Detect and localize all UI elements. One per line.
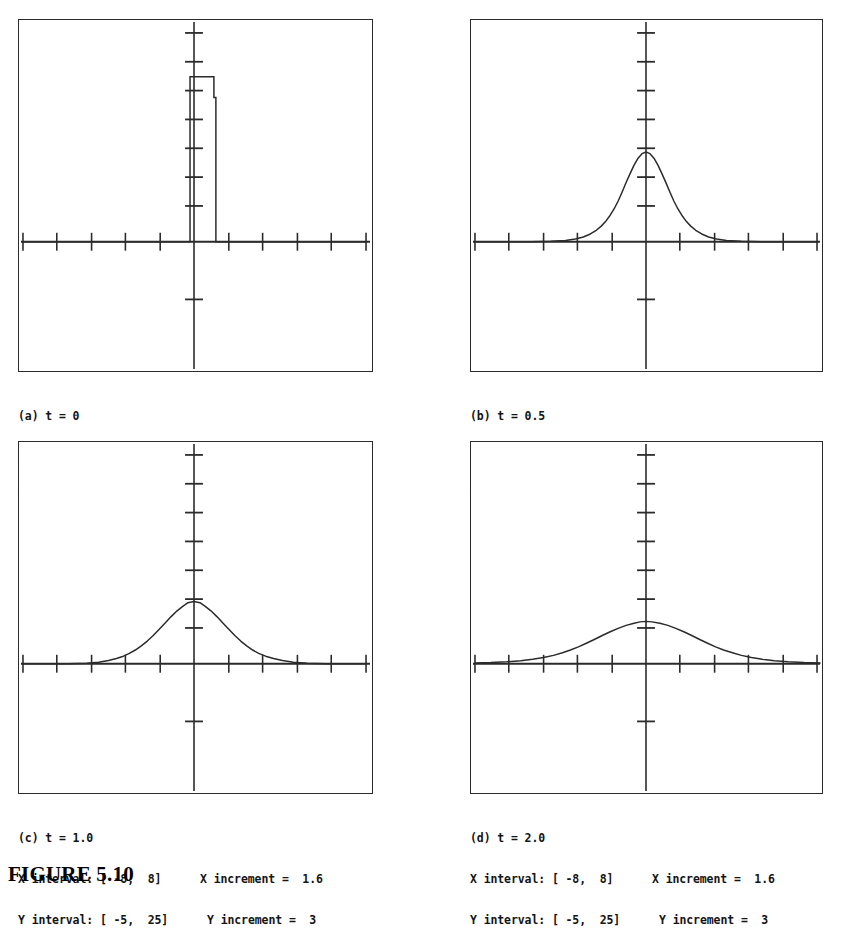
panel-d-y-increment: Y increment = 3: [652, 914, 768, 928]
plot-box-b: [470, 19, 823, 372]
plot-a: [19, 20, 372, 371]
plot-b: [471, 20, 822, 371]
axis-a: [21, 22, 370, 369]
axis-b: [473, 22, 820, 369]
panel-c-title: (c) t = 1.0: [18, 832, 373, 846]
plot-box-d: [470, 441, 823, 794]
panel-a-title: (a) t = 0: [18, 410, 373, 424]
panel-c-y-increment: Y increment = 3: [200, 914, 316, 928]
panel-c-x-increment: X increment = 1.6: [200, 873, 323, 887]
panel-b-title: (b) t = 0.5: [470, 410, 823, 424]
figure-label: FIGURE 5.10: [8, 862, 134, 887]
caption-d: (d) t = 2.0 X interval: [ -8, 8] X incre…: [470, 805, 823, 930]
axis-c: [21, 444, 370, 791]
axis-d: [473, 444, 820, 791]
panel-c-y-interval: Y interval: [ -5, 25]: [18, 914, 200, 928]
panel-d-y-interval: Y interval: [ -5, 25]: [470, 914, 652, 928]
panel-d-x-interval: X interval: [ -8, 8]: [470, 873, 652, 887]
plot-box-a: [18, 19, 373, 372]
plot-c: [19, 442, 372, 793]
panel-d-title: (d) t = 2.0: [470, 832, 823, 846]
panel-c: (c) t = 1.0 X interval: [ -8, 8] X incre…: [18, 441, 373, 930]
plot-d: [471, 442, 822, 793]
plot-box-c: [18, 441, 373, 794]
panel-d: (d) t = 2.0 X interval: [ -8, 8] X incre…: [470, 441, 823, 930]
panel-d-x-increment: X increment = 1.6: [652, 873, 775, 887]
